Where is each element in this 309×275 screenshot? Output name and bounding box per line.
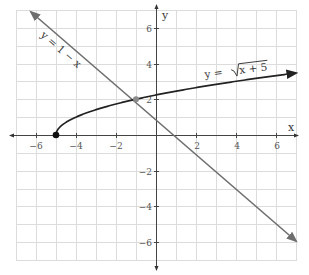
y-tick-label: −6 [139, 238, 153, 248]
x-tick-label: 2 [194, 141, 200, 151]
intersection-point [133, 96, 139, 102]
line-equation-label: y = 1 − x [38, 28, 84, 70]
x-tick-label: −4 [69, 141, 83, 151]
y-tick-label: 4 [146, 60, 152, 70]
x-tick-label: 6 [274, 141, 280, 151]
curve-equation-radicand: x + 5 [239, 60, 268, 75]
y-tick-label: −2 [139, 167, 152, 177]
x-axis-label: x [288, 121, 295, 134]
curve-start-point [53, 132, 60, 139]
y-tick-label: 6 [146, 24, 152, 34]
x-tick-label: −6 [29, 141, 43, 151]
x-tick-label: −2 [109, 141, 122, 151]
y-axis-label: y [161, 9, 169, 22]
curve-equation-prefix: y = [203, 66, 223, 80]
line-equation-text: y = 1 − x [38, 28, 84, 70]
x-tick-label: 4 [234, 141, 240, 151]
y-tick-label: −4 [139, 202, 153, 212]
graph-plot: −6 −4 −2 2 4 6 6 4 2 −2 −4 −6 x y y = 1 … [0, 0, 309, 275]
